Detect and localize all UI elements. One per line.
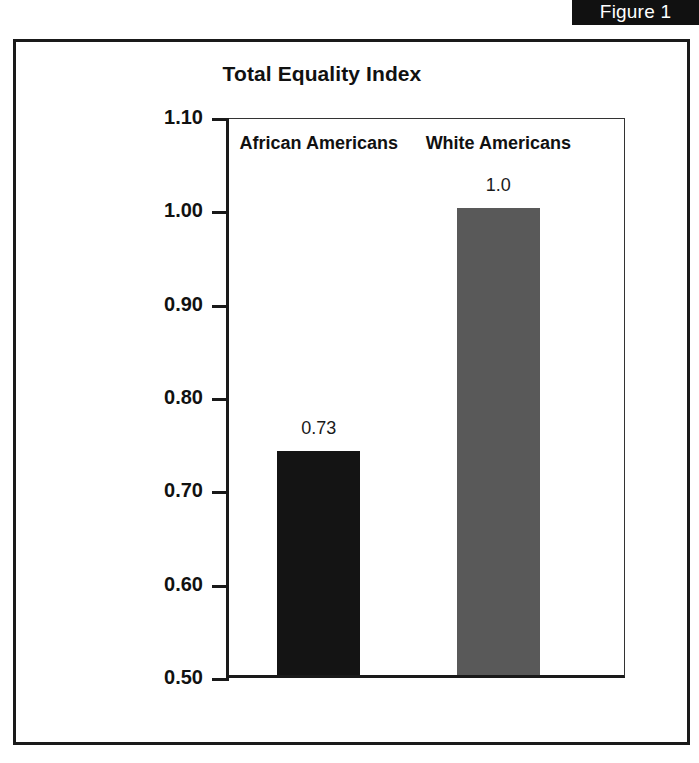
- y-axis-tick-mark: [212, 118, 229, 121]
- y-axis-tick-label: 0.90: [164, 293, 203, 316]
- y-axis-tick-mark: [212, 211, 229, 214]
- figure-frame: Total Equality Index 1.101.000.900.800.7…: [13, 39, 690, 745]
- bar-value-label: 0.73: [301, 418, 336, 439]
- y-axis-tick-mark: [212, 305, 229, 308]
- y-axis-tick-mark: [212, 398, 229, 401]
- x-axis-category-label: African Americans: [240, 133, 398, 154]
- y-axis-tick-label: 0.50: [164, 666, 203, 689]
- bar-2: 1.0: [457, 208, 540, 675]
- y-axis-tick-mark: [212, 585, 229, 588]
- bar-chart: Total Equality Index 1.101.000.900.800.7…: [16, 42, 687, 742]
- bar-value-label: 1.0: [486, 175, 511, 196]
- figure-banner-label: Figure 1: [600, 1, 671, 23]
- y-axis-tick-mark: [212, 678, 229, 681]
- chart-title: Total Equality Index: [16, 62, 628, 86]
- y-axis-tick-mark: [212, 491, 229, 494]
- y-axis-tick-label: 1.10: [164, 106, 203, 129]
- y-axis-tick-label: 0.80: [164, 386, 203, 409]
- y-axis-tick-label: 0.70: [164, 479, 203, 502]
- figure-banner: Figure 1: [572, 0, 699, 25]
- plot-area: 1.101.000.900.800.700.600.500.73African …: [226, 118, 625, 678]
- y-axis-tick-label: 0.60: [164, 573, 203, 596]
- x-axis-category-label: White Americans: [426, 133, 571, 154]
- bar-1: 0.73: [277, 451, 360, 675]
- y-axis-tick-label: 1.00: [164, 199, 203, 222]
